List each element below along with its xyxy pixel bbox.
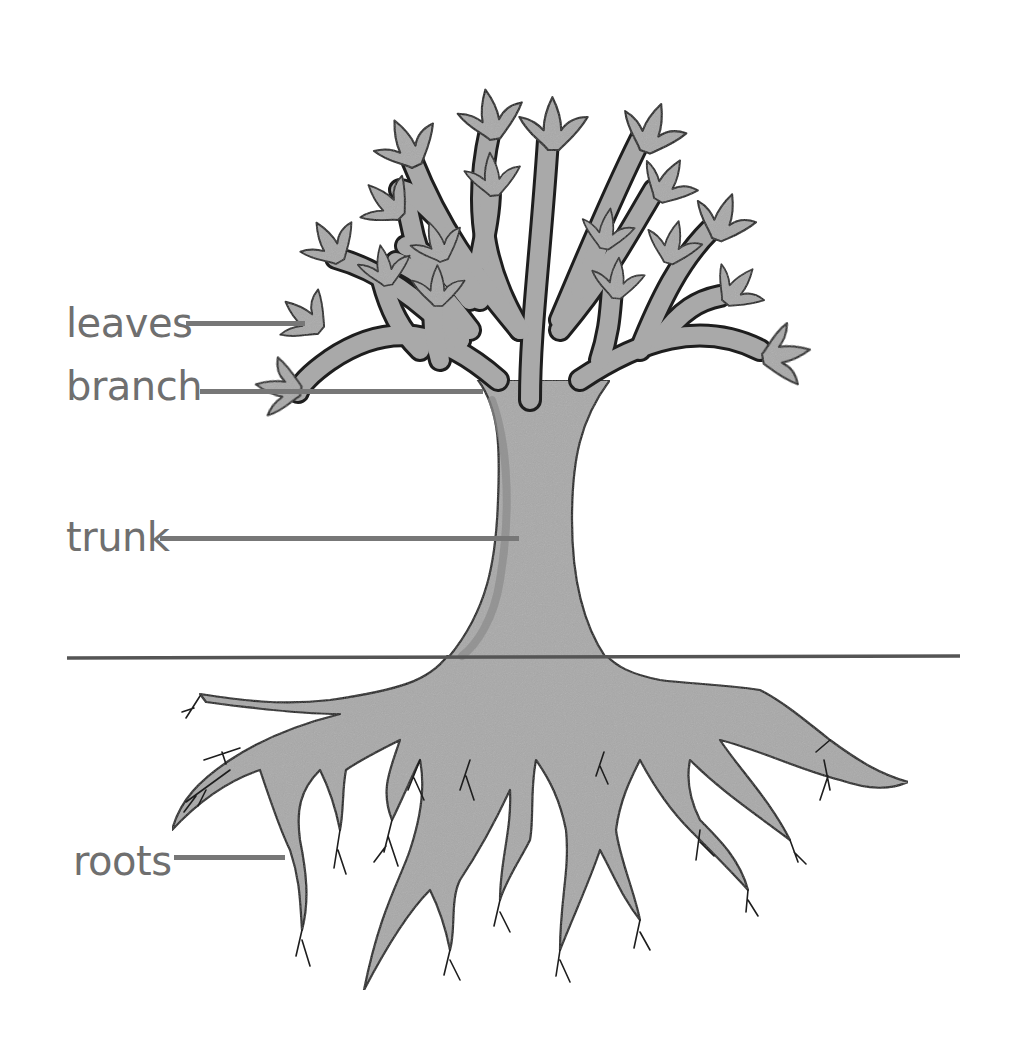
leader-line-roots xyxy=(174,855,285,860)
roots-shape xyxy=(172,655,908,990)
label-roots: roots xyxy=(73,841,172,881)
label-leaves: leaves xyxy=(66,303,192,343)
trunk-shape xyxy=(448,380,610,658)
leader-line-leaves xyxy=(186,321,305,326)
leader-line-branch xyxy=(200,389,483,394)
leader-line-trunk xyxy=(160,536,519,541)
ground-line xyxy=(67,656,960,658)
label-trunk: trunk xyxy=(66,517,170,557)
branches-shape xyxy=(298,130,760,400)
label-branch: branch xyxy=(66,366,202,406)
